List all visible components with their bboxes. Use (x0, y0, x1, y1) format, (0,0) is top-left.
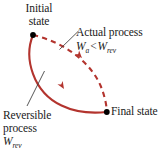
initial-state-label-line2: state (17, 16, 61, 28)
reversible-process-arrowhead (57, 81, 66, 91)
reversible-process-label: Reversible process Wrev (3, 110, 51, 148)
final-state-label-text: Final state (111, 105, 158, 117)
actual-process-label-text: Actual process (76, 26, 143, 38)
final-state-label: Final state (111, 106, 158, 118)
reversible-work-subscript: rev (12, 141, 21, 150)
reversible-process-label-line2: process (3, 123, 51, 135)
reversible-work-term: Wrev (3, 136, 51, 148)
initial-state-marker (30, 32, 36, 38)
reversible-work-subscript-inline: rev (107, 46, 116, 55)
initial-state-label-line1: Initial (26, 2, 53, 14)
final-state-marker (104, 109, 110, 115)
actual-process-label: Actual process Wa<Wrev (76, 27, 164, 52)
reversible-process-label-line1: Reversible (3, 109, 51, 121)
actual-work-inequality: Wa<Wrev (76, 41, 164, 53)
inequality-operator: < (89, 40, 97, 52)
reversible-work-symbol-inline: W (98, 40, 107, 52)
thermodynamics-process-diagram: Initial state Actual process Wa<Wrev Fin… (0, 0, 168, 154)
initial-state-label: Initial state (17, 3, 61, 27)
